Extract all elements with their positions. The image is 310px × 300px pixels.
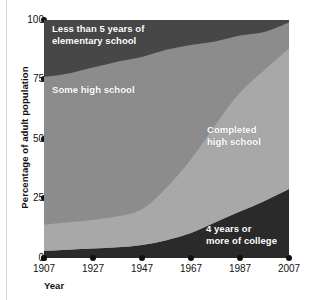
x-tick-label-2007: 2007 bbox=[269, 264, 309, 274]
y-axis-ticks: 100 75 50 25 0 bbox=[0, 0, 44, 300]
x-tick-dot-1967 bbox=[188, 255, 194, 261]
x-tick-label-1987: 1987 bbox=[220, 264, 260, 274]
y-tick-label-0: 0 bbox=[4, 253, 44, 263]
y-tick-label-75: 75 bbox=[4, 74, 44, 84]
x-tick-dot-1907 bbox=[41, 255, 47, 261]
y-tick-label-25: 25 bbox=[4, 193, 44, 203]
x-tick-label-1947: 1947 bbox=[122, 264, 162, 274]
x-axis-title: Year bbox=[44, 280, 64, 291]
x-tick-label-1927: 1927 bbox=[73, 264, 113, 274]
series-label-completed-high-school: Completed high school bbox=[207, 124, 261, 148]
series-label-elementary: Less than 5 years of elementary school bbox=[52, 23, 144, 47]
education-attainment-area-chart: Percentage of adult population 100 75 50… bbox=[0, 0, 310, 300]
x-tick-dot-2007 bbox=[286, 255, 292, 261]
series-label-some-high-school: Some high school bbox=[52, 84, 135, 96]
x-tick-dot-1947 bbox=[139, 255, 145, 261]
x-tick-label-1907: 1907 bbox=[24, 264, 64, 274]
y-tick-label-50: 50 bbox=[4, 134, 44, 144]
series-label-college: 4 years or more of college bbox=[206, 223, 277, 247]
x-tick-dot-1927 bbox=[90, 255, 96, 261]
x-tick-dot-1987 bbox=[237, 255, 243, 261]
y-tick-label-100: 100 bbox=[4, 15, 44, 25]
x-tick-label-1967: 1967 bbox=[171, 264, 211, 274]
